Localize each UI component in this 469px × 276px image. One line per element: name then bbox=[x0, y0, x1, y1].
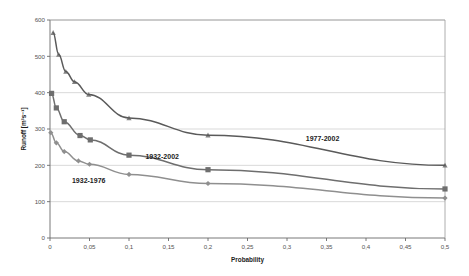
series-label-1932-1976: 1932-1976 bbox=[72, 177, 106, 184]
x-tick-label: 0,3 bbox=[283, 243, 292, 250]
y-tick-label: 500 bbox=[35, 53, 46, 60]
x-tick-label: 0,25 bbox=[241, 243, 254, 250]
y-tick-label: 400 bbox=[35, 89, 46, 96]
y-tick-label: 200 bbox=[35, 162, 46, 169]
x-tick-label: 0,05 bbox=[83, 243, 96, 250]
data-point-marker-square bbox=[77, 133, 82, 138]
x-tick-label: 0,15 bbox=[162, 243, 175, 250]
x-axis-title: Probability bbox=[231, 256, 264, 264]
x-tick-label: 0,2 bbox=[204, 243, 213, 250]
data-point-marker-square bbox=[54, 105, 59, 110]
data-point-marker-square bbox=[205, 167, 210, 172]
y-tick-label: 0 bbox=[42, 234, 46, 241]
data-point-marker-square bbox=[62, 119, 67, 124]
y-tick-label: 600 bbox=[35, 16, 46, 23]
x-tick-label: 0,45 bbox=[399, 243, 412, 250]
series-label-1977-2002: 1977-2002 bbox=[306, 135, 340, 142]
y-axis-title: Runoff [m³s⁻¹] bbox=[20, 107, 28, 150]
x-tick-label: 0 bbox=[48, 243, 52, 250]
data-point-marker-square bbox=[126, 153, 131, 158]
x-tick-label: 0,4 bbox=[362, 243, 371, 250]
y-tick-label: 300 bbox=[35, 125, 46, 132]
chart-container: 010020030040050060000,050,10,150,20,250,… bbox=[0, 0, 469, 276]
x-tick-label: 0,35 bbox=[320, 243, 333, 250]
y-tick-label: 100 bbox=[35, 198, 46, 205]
series-label-1932-2002: 1932-2002 bbox=[145, 153, 179, 160]
x-tick-label: 0,5 bbox=[441, 243, 450, 250]
data-point-marker-square bbox=[49, 91, 54, 96]
x-tick-label: 0,1 bbox=[125, 243, 134, 250]
data-point-marker-square bbox=[88, 137, 93, 142]
data-point-marker-square bbox=[442, 186, 447, 191]
runoff-probability-chart: 010020030040050060000,050,10,150,20,250,… bbox=[0, 0, 469, 276]
